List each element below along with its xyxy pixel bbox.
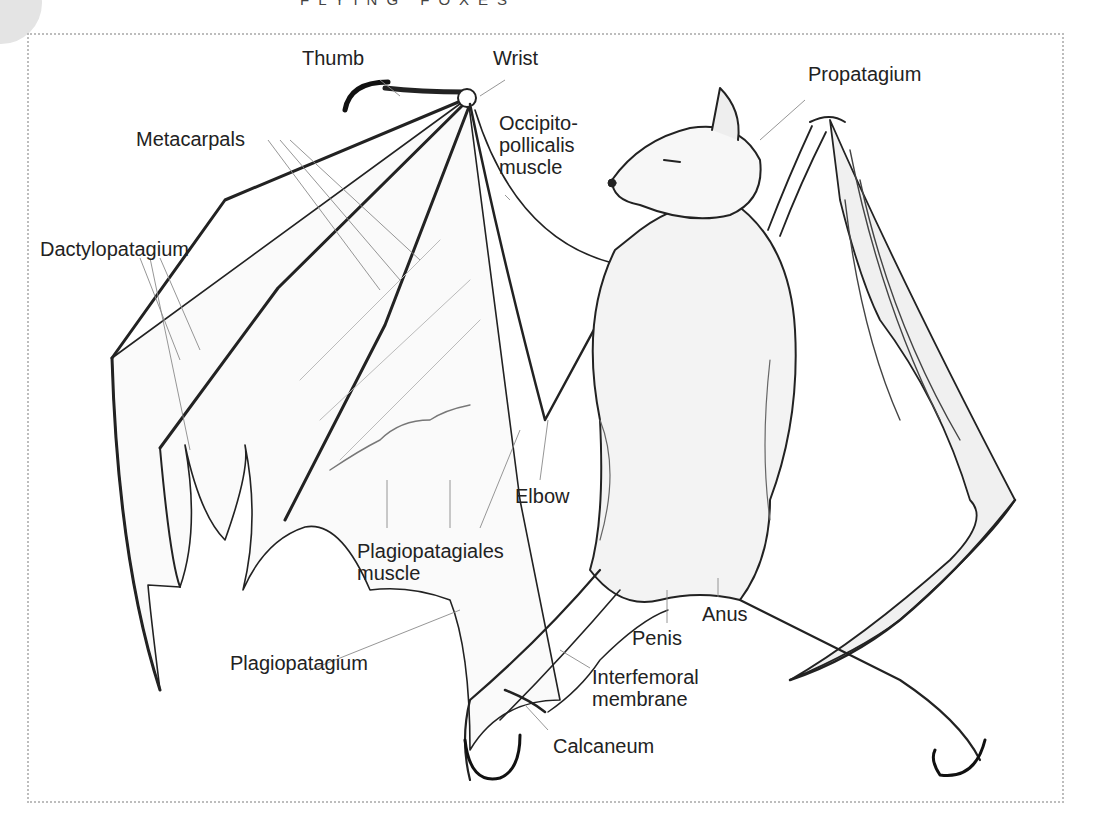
label-interfemoral-line1: Interfemoral <box>592 666 699 688</box>
label-metacarpals: Metacarpals <box>136 128 245 150</box>
label-plagiopatagiales-line1: Plagiopatagiales <box>357 540 504 562</box>
left-thumb-claw <box>345 82 388 110</box>
right-wing-folded <box>790 120 1015 680</box>
right-foot-claws <box>933 740 985 776</box>
right-upper-arm <box>770 130 815 230</box>
label-penis: Penis <box>632 627 682 649</box>
body-torso <box>590 200 796 602</box>
right-leg <box>740 600 980 760</box>
label-wrist: Wrist <box>493 47 538 69</box>
label-occipitopollicalis-line3: muscle <box>499 156 562 178</box>
left-thumb <box>385 88 466 92</box>
label-interfemoral-line2: membrane <box>592 688 688 710</box>
label-propatagium: Propatagium <box>808 63 921 85</box>
label-thumb: Thumb <box>302 47 364 69</box>
label-occipitopollicalis-line2: pollicalis <box>499 134 575 156</box>
label-plagiopatagiales-line2: muscle <box>357 562 420 584</box>
label-plagiopatagium: Plagiopatagium <box>230 652 368 674</box>
label-calcaneum: Calcaneum <box>553 735 654 757</box>
label-anus: Anus <box>702 603 748 625</box>
label-occipitopollicalis-line1: Occipito- <box>499 112 578 134</box>
label-elbow: Elbow <box>515 485 569 507</box>
label-dactylopatagium: Dactylopatagium <box>40 238 189 260</box>
